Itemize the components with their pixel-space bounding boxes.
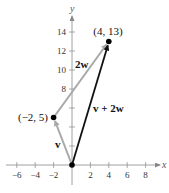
y-tick-label: 14 bbox=[57, 27, 67, 37]
x-axis: −6 −4 −2 2 4 6 8 x bbox=[6, 159, 167, 180]
vector-label-v: v bbox=[55, 138, 61, 150]
x-tick-label: −2 bbox=[49, 170, 59, 180]
x-tick-label: 4 bbox=[107, 170, 112, 180]
vector-label-v-plus-2w: v + 2w bbox=[93, 102, 124, 114]
point-label-4-13: (4, 13) bbox=[93, 25, 123, 38]
x-tick-label: 8 bbox=[143, 170, 148, 180]
x-tick-label: −4 bbox=[30, 170, 40, 180]
x-tick-label: 2 bbox=[88, 170, 93, 180]
point-origin bbox=[69, 162, 75, 168]
point-label-neg2-5: (−2, 5) bbox=[18, 111, 48, 124]
vector-diagram: −6 −4 −2 2 4 6 8 x 14 12 10 8 6 y bbox=[0, 0, 169, 193]
y-tick-label: 10 bbox=[57, 65, 67, 75]
x-tick-label: −6 bbox=[12, 170, 22, 180]
y-axis: 14 12 10 8 6 y bbox=[57, 3, 75, 185]
vector-label-2w: 2w bbox=[75, 58, 89, 70]
y-tick-label: 12 bbox=[57, 46, 66, 56]
x-axis-label: x bbox=[161, 159, 167, 170]
x-tick-label: 6 bbox=[125, 170, 130, 180]
y-axis-label: y bbox=[69, 3, 75, 14]
point-neg2-5 bbox=[51, 115, 57, 121]
point-4-13 bbox=[106, 39, 112, 45]
